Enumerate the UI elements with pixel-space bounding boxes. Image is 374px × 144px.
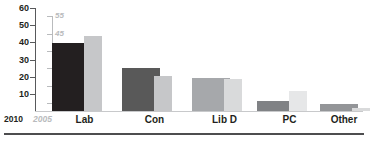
bar-pc-2005	[289, 91, 307, 111]
tick-label-2010-10: 10	[1, 90, 29, 99]
plot-area	[52, 8, 363, 111]
bar-group-libd	[192, 8, 249, 111]
bar-group-con	[122, 8, 179, 111]
tick-2010-60	[30, 8, 36, 9]
category-label-lab: Lab	[56, 114, 113, 125]
category-label-con: Con	[126, 114, 183, 125]
tick-2010-40	[30, 42, 36, 43]
category-label-libd: Lib D	[196, 114, 253, 125]
tick-2010-30	[30, 60, 36, 61]
axis-name-2005: 2005	[33, 115, 52, 124]
tick-label-2010-40: 40	[1, 38, 29, 47]
bar-group-other	[320, 8, 374, 111]
bar-lab-2005	[84, 36, 102, 111]
tick-label-2010-30: 30	[1, 56, 29, 65]
baseline-axis	[35, 111, 363, 112]
axis-name-2010: 2010	[4, 115, 23, 124]
bar-group-pc	[257, 8, 314, 111]
bar-con-2005	[154, 76, 172, 111]
tick-label-2010-60: 60	[1, 4, 29, 13]
bar-group-lab	[52, 8, 109, 111]
tick-label-2010-20: 20	[1, 73, 29, 82]
tick-2010-50	[30, 25, 36, 26]
tick-2010-10	[30, 94, 36, 95]
bottom-divider	[4, 133, 364, 135]
bar-libd-2005	[224, 79, 242, 111]
tick-label-2010-50: 50	[1, 21, 29, 30]
category-label-pc: PC	[261, 114, 318, 125]
category-label-other: Other	[322, 114, 366, 125]
tick-2010-20	[30, 77, 36, 78]
